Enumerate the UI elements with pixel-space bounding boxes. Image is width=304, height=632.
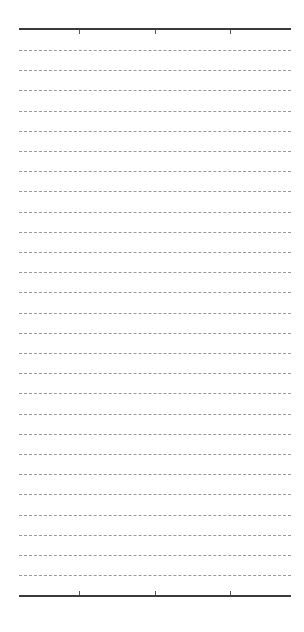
axis-tick (79, 30, 80, 34)
dashed-guide-line (19, 212, 291, 213)
bottom-axis-line (19, 595, 291, 597)
dashed-guide-line (19, 494, 291, 495)
dashed-guide-line (19, 171, 291, 172)
dashed-guide-line (19, 131, 291, 132)
dashed-guide-line (19, 474, 291, 475)
dashed-guide-line (19, 151, 291, 152)
axis-tick (79, 591, 80, 595)
dashed-guide-line (19, 70, 291, 71)
dashed-guide-line (19, 232, 291, 233)
dashed-guide-line (19, 333, 291, 334)
dashed-guide-line (19, 90, 291, 91)
dashed-guide-line (19, 575, 291, 576)
dashed-guide-line (19, 373, 291, 374)
dashed-guide-line (19, 292, 291, 293)
dashed-guide-line (19, 313, 291, 314)
axis-tick (230, 30, 231, 34)
dashed-guide-line (19, 252, 291, 253)
dashed-guide-line (19, 50, 291, 51)
dashed-guide-line (19, 353, 291, 354)
dashed-guide-line (19, 454, 291, 455)
dashed-guide-line (19, 434, 291, 435)
dashed-guide-line (19, 272, 291, 273)
dashed-guide-line (19, 555, 291, 556)
dashed-guide-line (19, 515, 291, 516)
axis-tick (230, 591, 231, 595)
dashed-guide-line (19, 414, 291, 415)
dashed-guide-line (19, 111, 291, 112)
dashed-guide-line (19, 393, 291, 394)
axis-tick (155, 30, 156, 34)
dashed-guide-line (19, 535, 291, 536)
dashed-guide-line (19, 191, 291, 192)
axis-tick (155, 591, 156, 595)
